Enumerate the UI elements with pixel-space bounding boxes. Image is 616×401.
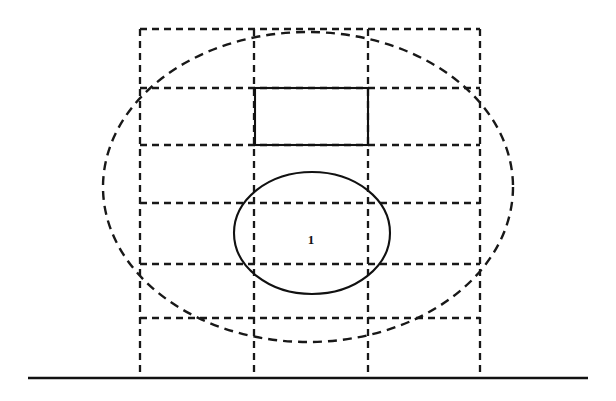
solid-rectangle [255,88,368,145]
grid-horizontal-lines [140,29,480,318]
region-label-1: 1 [308,232,315,247]
technical-diagram: 1 [0,0,616,401]
dashed-outer-ellipse [103,32,513,342]
figure-canvas: 1 [0,0,616,401]
